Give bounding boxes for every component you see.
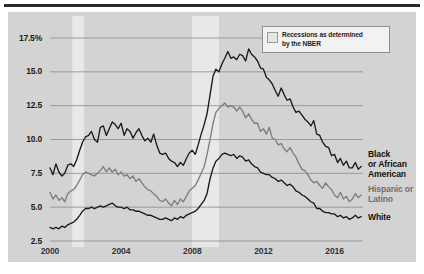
series-label-hispanic-or-latino: Hispanic or Latino bbox=[368, 184, 413, 204]
top-rule-divider bbox=[4, 4, 420, 7]
y-axis-tick-label: 2.5 bbox=[8, 236, 42, 246]
y-axis-tick-label: 10.0 bbox=[8, 134, 42, 144]
series-label-black-or-african-american: Black or African American bbox=[368, 149, 407, 179]
series-label-hispanic-line2: Latino bbox=[368, 194, 413, 204]
series-label-white-line1: White bbox=[368, 212, 391, 222]
legend-label: Recessions as determined by the NBER bbox=[282, 31, 363, 48]
legend-label-line2: by the NBER bbox=[282, 40, 363, 49]
recession-band-swatch bbox=[267, 32, 278, 43]
series-label-black-line2: or African bbox=[368, 159, 407, 169]
series-label-black-line3: American bbox=[368, 169, 407, 179]
y-axis-tick-label: 15.0 bbox=[8, 66, 42, 76]
chart-figure: Recessions as determined by the NBER Bla… bbox=[8, 12, 416, 262]
series-label-white: White bbox=[368, 212, 391, 222]
chart-legend: Recessions as determined by the NBER bbox=[262, 26, 390, 53]
series-label-hispanic-line1: Hispanic or bbox=[368, 184, 413, 194]
x-axis-tick-label: 2000 bbox=[30, 246, 70, 256]
y-axis-tick-label: 7.5 bbox=[8, 168, 42, 178]
series-label-black-line1: Black bbox=[368, 149, 407, 159]
legend-label-line1: Recessions as determined bbox=[282, 31, 363, 40]
x-axis-tick-label: 2016 bbox=[315, 246, 355, 256]
chart-root: Recessions as determined by the NBER Bla… bbox=[0, 0, 424, 274]
y-axis-tick-label: 17.5% bbox=[8, 33, 42, 43]
x-axis-tick-label: 2012 bbox=[243, 246, 283, 256]
y-axis-tick-label: 5.0 bbox=[8, 202, 42, 212]
x-axis-tick-label: 2004 bbox=[101, 246, 141, 256]
x-axis-tick-label: 2008 bbox=[172, 246, 212, 256]
y-axis-tick-label: 12.5 bbox=[8, 100, 42, 110]
